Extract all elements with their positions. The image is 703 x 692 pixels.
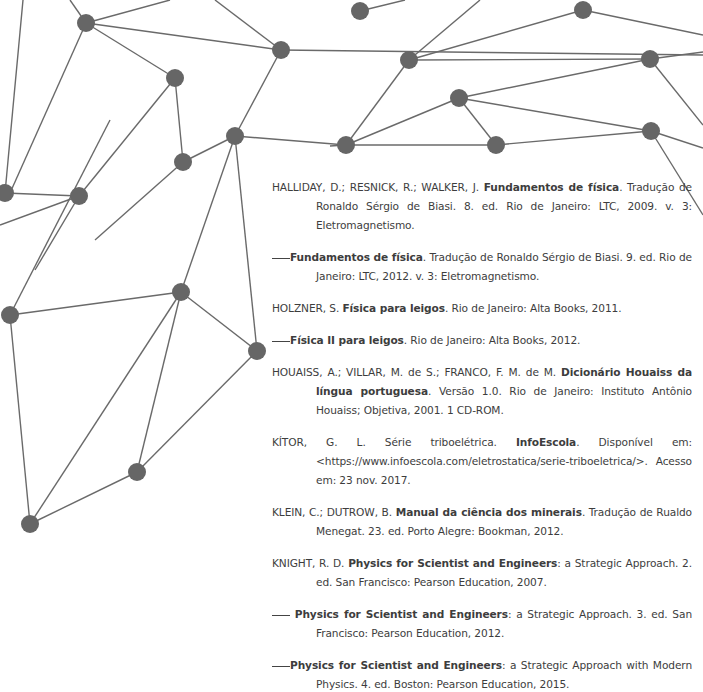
reference-title: Física para leigos <box>342 302 445 314</box>
network-node <box>487 136 505 154</box>
reference-entry: KLEIN, C.; DUTROW, B. Manual da ciência … <box>272 503 692 541</box>
network-node <box>77 14 95 32</box>
repeat-author-dash <box>272 257 290 259</box>
reference-authors: HOUAISS, A.; VILLAR, M. de S.; FRANCO, F… <box>272 366 561 378</box>
reference-title: Fundamentos de física <box>290 251 423 263</box>
reference-title: Physics for Scientist and Engineers <box>295 608 508 620</box>
reference-authors: KÍTOR, G. L. Série triboelétrica. <box>272 436 516 448</box>
reference-entry: HOUAISS, A.; VILLAR, M. de S.; FRANCO, F… <box>272 363 692 420</box>
network-node <box>248 342 266 360</box>
repeat-author-dash <box>272 340 290 342</box>
network-node <box>641 50 659 68</box>
network-node <box>226 127 244 145</box>
reference-title: Física II para leigos <box>290 334 404 346</box>
reference-authors: HALLIDAY, D.; RESNICK, R.; WALKER, J. <box>272 181 484 193</box>
network-node <box>172 283 190 301</box>
network-node <box>574 1 592 19</box>
reference-entry: KÍTOR, G. L. Série triboelétrica. InfoEs… <box>272 433 692 490</box>
network-node <box>174 153 192 171</box>
reference-entry: Física II para leigos. Rio de Janeiro: A… <box>272 331 692 350</box>
network-node <box>642 122 660 140</box>
reference-entry: Fundamentos de física. Tradução de Ronal… <box>272 248 692 286</box>
reference-entry: HOLZNER, S. Física para leigos. Rio de J… <box>272 299 692 318</box>
network-node <box>1 306 19 324</box>
reference-authors: KNIGHT, R. D. <box>272 557 348 569</box>
network-node <box>128 463 146 481</box>
network-node <box>0 184 14 202</box>
network-node <box>337 136 355 154</box>
reference-title: Fundamentos de física <box>484 181 619 193</box>
network-node <box>70 187 88 205</box>
reference-entry: Physics for Scientist and Engineers: a S… <box>272 605 692 643</box>
reference-list: HALLIDAY, D.; RESNICK, R.; WALKER, J. Fu… <box>272 178 692 692</box>
reference-entry: KNIGHT, R. D. Physics for Scientist and … <box>272 554 692 592</box>
repeat-author-dash <box>272 614 290 616</box>
reference-entry: HALLIDAY, D.; RESNICK, R.; WALKER, J. Fu… <box>272 178 692 235</box>
network-node <box>351 2 369 20</box>
reference-details: . Rio de Janeiro: Alta Books, 2012. <box>404 334 580 346</box>
network-node <box>21 515 39 533</box>
reference-details: . Rio de Janeiro: Alta Books, 2011. <box>445 302 621 314</box>
reference-title: Physics for Scientist and Engineers <box>348 557 557 569</box>
reference-entry: Physics for Scientist and Engineers: a S… <box>272 656 692 692</box>
reference-authors: KLEIN, C.; DUTROW, B. <box>272 506 396 518</box>
network-node <box>450 89 468 107</box>
repeat-author-dash <box>272 665 290 667</box>
reference-title: InfoEscola <box>516 436 576 448</box>
reference-title: Manual da ciência dos minerais <box>396 506 582 518</box>
reference-title: Physics for Scientist and Engineers <box>290 659 502 671</box>
network-node <box>272 41 290 59</box>
reference-authors: HOLZNER, S. <box>272 302 342 314</box>
network-node <box>166 69 184 87</box>
network-node <box>400 51 418 69</box>
